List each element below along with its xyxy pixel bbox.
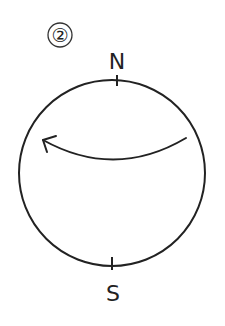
- motion-arrow: [43, 136, 186, 160]
- horizon-circle: [19, 80, 205, 266]
- figure-number: ②: [51, 24, 68, 46]
- figure-number-badge: ②: [48, 23, 72, 47]
- north-label: N: [109, 49, 125, 74]
- south-label: S: [106, 281, 120, 306]
- celestial-sphere-diagram: ② N S: [0, 0, 225, 326]
